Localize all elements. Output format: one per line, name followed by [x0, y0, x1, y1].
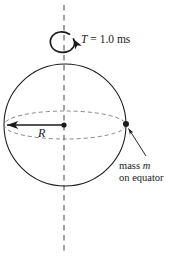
mass-prefix: mass — [119, 160, 143, 171]
mass-label-line2: on equator — [119, 172, 164, 184]
center-point-icon — [61, 122, 66, 127]
period-value: 1.0 ms — [100, 33, 131, 45]
period-equals: = — [87, 33, 99, 45]
mass-label: mass mon equator — [119, 160, 164, 185]
leader-line-icon — [129, 129, 147, 157]
period-label: T = 1.0 ms — [81, 33, 130, 47]
mass-symbol: m — [143, 160, 151, 171]
radius-label: R — [38, 126, 45, 140]
physics-diagram: T = 1.0 ms R mass mon equator — [0, 0, 171, 257]
rotation-arrow-icon — [50, 32, 74, 52]
mass-point-icon — [123, 121, 129, 127]
